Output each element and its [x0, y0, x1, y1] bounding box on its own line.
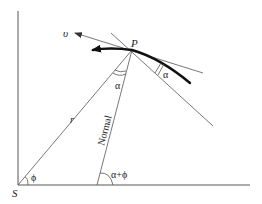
- phi-arc: [25, 177, 28, 185]
- point-label: P: [130, 37, 138, 49]
- alpha-tangent-label: α: [163, 69, 169, 80]
- perpendicular-line: [111, 33, 213, 126]
- trajectory-curve: [93, 49, 190, 84]
- phi-label: ϕ: [31, 172, 36, 183]
- angle-marks: [25, 63, 164, 185]
- alpha-at-P-label: α: [115, 80, 121, 91]
- trajectory-diagram: υ P α α r Normal ϕ α+ϕ S: [0, 0, 262, 204]
- velocity-label: υ: [63, 27, 68, 39]
- radius-label: r: [70, 114, 74, 125]
- alpha-arc-at-P: [113, 73, 126, 75]
- alpha-arc-at-P-inner: [115, 70, 126, 72]
- origin-label: S: [12, 187, 18, 199]
- alpha-plus-phi-label: α+ϕ: [111, 169, 127, 180]
